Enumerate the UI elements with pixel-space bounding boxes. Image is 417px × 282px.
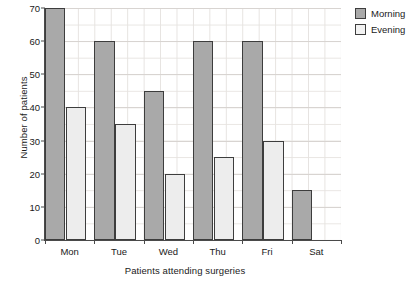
bar-sat-morning [292, 190, 313, 240]
x-tick-label-thu: Thu [209, 246, 225, 257]
y-axis-title: Number of patients [18, 43, 29, 193]
x-tick-label-fri: Fri [261, 246, 272, 257]
bar-wed-morning [144, 91, 165, 240]
x-tick-mark [193, 240, 194, 244]
bar-mon-morning [45, 8, 66, 240]
legend-label: Evening [371, 24, 405, 35]
y-tick-label: 10 [29, 201, 40, 212]
y-tick-label: 50 [29, 69, 40, 80]
legend-item-evening: Evening [355, 24, 405, 35]
x-tick-mark [341, 240, 342, 244]
x-tick-label-wed: Wed [159, 246, 178, 257]
x-axis-title: Patients attending surgeries [40, 265, 330, 276]
legend-label: Morning [371, 8, 405, 19]
x-tick-label-tue: Tue [111, 246, 127, 257]
plot-area: 010203040506070 [45, 8, 341, 240]
legend-item-morning: Morning [355, 8, 405, 19]
x-tick-mark [45, 240, 46, 244]
bar-fri-morning [242, 41, 263, 240]
y-tick-label: 0 [35, 235, 40, 246]
bar-wed-evening [165, 174, 186, 240]
x-tick-mark [144, 240, 145, 244]
bar-tue-morning [94, 41, 115, 240]
y-tick-label: 20 [29, 168, 40, 179]
x-tick-mark [94, 240, 95, 244]
bar-thu-morning [193, 41, 214, 240]
y-tick-label: 40 [29, 102, 40, 113]
x-tick-mark [242, 240, 243, 244]
y-tick-label: 60 [29, 36, 40, 47]
chart-legend: MorningEvening [355, 8, 405, 35]
x-axis-ticks: MonTueWedThuFriSat [45, 240, 341, 264]
bar-thu-evening [214, 157, 235, 240]
legend-swatch-morning-icon [355, 8, 366, 19]
bar-chart: Number of patients 010203040506070 MonTu… [0, 0, 417, 282]
y-tick-label: 30 [29, 135, 40, 146]
bar-mon-evening [66, 107, 87, 240]
x-tick-mark [292, 240, 293, 244]
x-tick-label-sat: Sat [309, 246, 323, 257]
legend-swatch-evening-icon [355, 24, 366, 35]
y-tick-label: 70 [29, 3, 40, 14]
x-tick-label-mon: Mon [60, 246, 78, 257]
bar-fri-evening [263, 141, 284, 240]
bars-layer [45, 8, 341, 240]
bar-tue-evening [115, 124, 136, 240]
